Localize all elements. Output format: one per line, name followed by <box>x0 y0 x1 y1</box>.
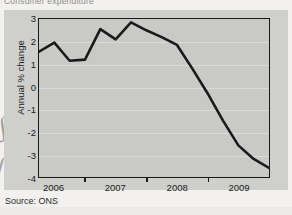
x-axis-tick-labels: 2006200720082009 <box>38 180 270 194</box>
page-title: Consumer expenditure <box>4 0 204 7</box>
chart-figure-page: Consumer expenditure ∫ ∾ ∫ Annual % chan… <box>0 0 292 215</box>
x-axis-tick-label: 2009 <box>229 182 250 193</box>
series-line-path <box>39 22 269 168</box>
series-line-chart <box>39 19 269 177</box>
y-axis-tick-labels: 3210-1-2-3-4 <box>18 18 36 178</box>
y-axis-tick-label: -2 <box>28 127 36 138</box>
y-axis-tick-label: -1 <box>28 104 36 115</box>
chart-panel: Annual % change 3210-1-2-3-4 20062007200… <box>4 10 288 190</box>
page-bottom-band <box>0 207 292 215</box>
source-label: Source: ONS <box>5 196 58 206</box>
y-axis-tick-label: -3 <box>28 150 36 161</box>
y-axis-tick-label: 3 <box>31 13 36 24</box>
y-axis-tick-label: 0 <box>31 81 36 92</box>
x-axis-tick-label: 2008 <box>167 182 188 193</box>
y-axis-tick-label: -4 <box>28 173 36 184</box>
y-axis-tick-label: 2 <box>31 35 36 46</box>
figure-title-strip: Consumer expenditure <box>4 0 204 7</box>
x-axis-tick-label: 2007 <box>105 182 126 193</box>
y-axis-tick-label: 1 <box>31 58 36 69</box>
plot-area <box>38 18 270 178</box>
x-axis-tick-label: 2006 <box>43 182 64 193</box>
